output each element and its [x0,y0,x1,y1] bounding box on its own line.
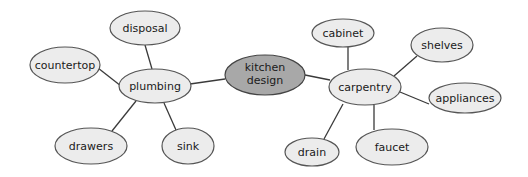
edge-plumbing-disposal [145,45,152,69]
node-appliances: appliances [429,83,501,113]
node-carpentry: carpentry [329,69,401,105]
edge-carpentry-appliances [400,92,429,104]
node-label: carpentry [338,81,392,94]
edge-carpentry-drain [324,104,343,139]
node-label: drain [298,146,326,159]
node-center-kitchen-design: kitchen design [225,55,305,95]
edge-plumbing-countertop [98,68,121,86]
node-label: faucet [375,141,410,154]
node-drawers: drawers [55,128,127,164]
node-label: appliances [435,92,494,105]
node-shelves: shelves [411,28,473,62]
edge-plumbing-drawers [112,101,136,131]
node-label: drawers [69,140,114,153]
node-drain: drain [285,138,339,166]
center-label-line2: design [247,74,284,87]
node-label: disposal [122,22,167,35]
node-disposal: disposal [110,11,180,45]
edge-plumbing-sink [164,103,176,130]
node-plumbing: plumbing [119,69,191,103]
edge-carpentry-shelves [394,56,417,76]
node-label: sink [177,140,200,153]
node-cabinet: cabinet [312,19,374,47]
node-countertop: countertop [30,47,100,83]
edge-center-plumbing [190,79,225,84]
mind-map: disposal countertop plumbing drawers sin… [0,0,528,177]
node-faucet: faucet [356,129,428,165]
center-label-line1: kitchen [245,61,286,74]
node-label: countertop [35,59,95,72]
node-sink: sink [162,128,214,164]
node-label: cabinet [323,27,365,40]
edge-center-carpentry [305,75,330,80]
node-label: shelves [421,39,463,52]
node-label: plumbing [129,80,181,93]
